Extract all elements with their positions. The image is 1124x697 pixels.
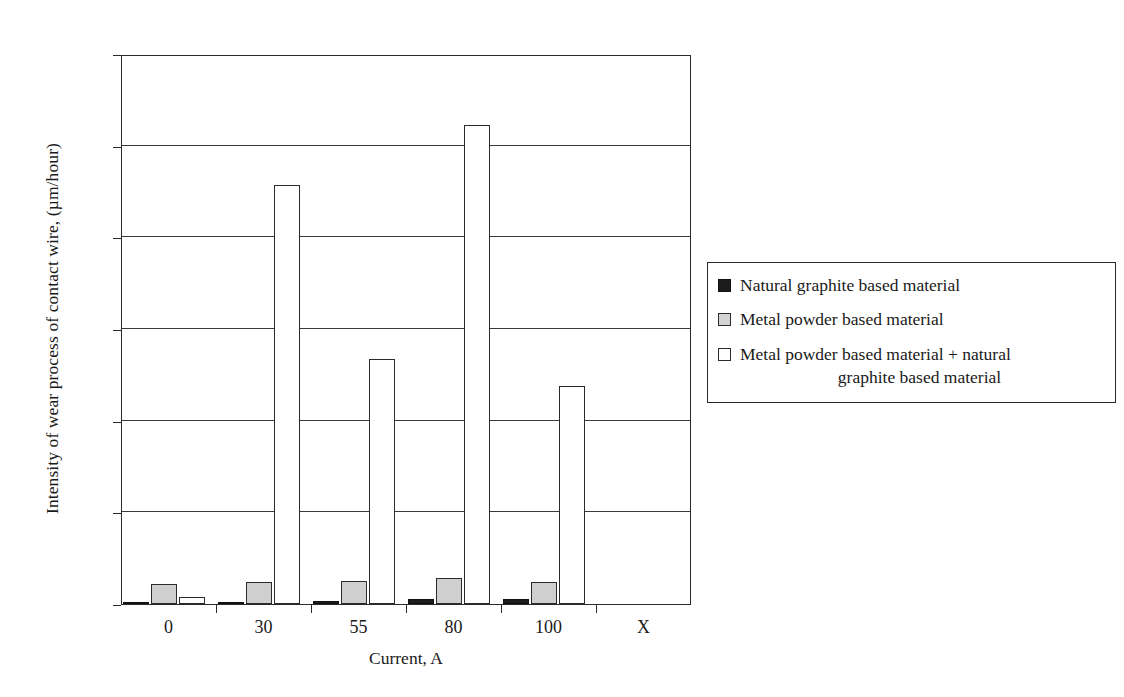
bar bbox=[369, 359, 395, 604]
x-axis-tick-label: 100 bbox=[504, 617, 594, 638]
legend-item-metal-powder-plus-graphite: Metal powder based material + natural gr… bbox=[718, 343, 1105, 390]
y-axis-tick-mark bbox=[113, 422, 121, 423]
y-axis-tick-mark bbox=[113, 513, 121, 514]
x-axis-tick-mark bbox=[406, 605, 407, 613]
bar bbox=[559, 386, 585, 604]
plot-area bbox=[121, 55, 691, 605]
legend-swatch-gray-icon bbox=[718, 313, 731, 326]
x-axis-tick-label: 0 bbox=[124, 617, 214, 638]
x-axis-tick-mark bbox=[501, 605, 502, 613]
x-axis-tick-label: 80 bbox=[409, 617, 499, 638]
x-axis-tick-mark bbox=[311, 605, 312, 613]
x-axis-title: Current, A bbox=[121, 648, 691, 669]
x-axis-tick-mark bbox=[596, 605, 597, 613]
legend: Natural graphite based material Metal po… bbox=[707, 262, 1116, 403]
legend-swatch-black-icon bbox=[718, 279, 731, 292]
y-axis-tick-mark bbox=[113, 330, 121, 331]
x-axis-tick-label: 30 bbox=[219, 617, 309, 638]
bar bbox=[531, 582, 557, 604]
y-axis-tick-mark bbox=[113, 55, 121, 56]
bar bbox=[464, 125, 490, 604]
bar bbox=[341, 581, 367, 604]
bar bbox=[436, 578, 462, 604]
bar bbox=[246, 582, 272, 604]
x-axis-tick-mark bbox=[216, 605, 217, 613]
legend-label-natural-graphite: Natural graphite based material bbox=[740, 274, 1105, 297]
legend-label-metal-powder-plus-graphite: Metal powder based material + natural gr… bbox=[740, 343, 1105, 390]
x-axis-tick-label: 55 bbox=[314, 617, 404, 638]
x-axis-tick-label: X bbox=[599, 617, 689, 638]
bar bbox=[218, 602, 244, 605]
bar bbox=[313, 601, 339, 604]
y-axis-tick-mark bbox=[113, 238, 121, 239]
bar bbox=[179, 597, 205, 604]
legend-label-line1: Metal powder based material + natural bbox=[740, 344, 1011, 364]
legend-item-natural-graphite: Natural graphite based material bbox=[718, 274, 1105, 297]
bar bbox=[274, 185, 300, 604]
chart-figure: Intensity of wear process of contact wir… bbox=[0, 0, 1124, 697]
legend-item-metal-powder: Metal powder based material bbox=[718, 308, 1105, 331]
legend-label-line2: graphite based material bbox=[740, 366, 1105, 389]
y-axis-tick-mark bbox=[113, 147, 121, 148]
bar bbox=[151, 584, 177, 604]
y-axis-tick-mark bbox=[113, 605, 121, 606]
legend-label-metal-powder: Metal powder based material bbox=[740, 308, 1105, 331]
y-axis-title: Intensity of wear process of contact wir… bbox=[42, 49, 63, 609]
bars-layer bbox=[122, 56, 690, 604]
bar bbox=[123, 602, 149, 605]
bar bbox=[408, 599, 434, 604]
legend-swatch-white-icon bbox=[718, 348, 731, 361]
bar bbox=[503, 599, 529, 604]
